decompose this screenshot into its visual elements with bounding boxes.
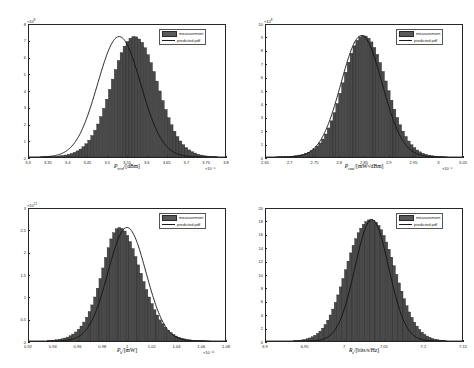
histogram-bar	[153, 310, 156, 341]
histogram-bar	[117, 60, 120, 157]
x-axis-tick-mark	[226, 156, 227, 158]
y-axis-tick-mark	[265, 221, 267, 222]
y-axis-tick-mark	[265, 235, 267, 236]
y-axis-tick-mark	[265, 78, 267, 79]
x-axis-tick-mark	[127, 156, 128, 158]
x-axis-tick-mark	[265, 340, 266, 342]
histogram-bar	[94, 130, 97, 157]
histogram-bar	[152, 72, 155, 157]
y-exponent-label: ×1012	[27, 202, 37, 208]
y-axis-tick-label: 8	[6, 22, 26, 27]
x-exponent-label: ×10⁻⁶	[205, 166, 215, 171]
panel-bottom-left: ×1012 00.511.522.53 0.920.940.960.9811.0…	[0, 184, 237, 368]
histogram-bar	[393, 109, 396, 157]
histogram-bar	[94, 297, 97, 341]
y-exponent-label: ×108	[264, 18, 272, 24]
histogram-bar	[334, 302, 337, 341]
x-axis-tick-mark	[201, 340, 202, 342]
y-axis-tick-label: 2	[243, 326, 263, 331]
histogram-bar	[329, 315, 332, 341]
legend-label-predicted: predicted pdf	[177, 39, 200, 43]
histogram-bars	[47, 227, 210, 341]
x-axis-tick-mark	[463, 156, 464, 158]
x-axis-tick-mark	[384, 340, 385, 342]
measurement-swatch	[399, 31, 414, 37]
legend-row-predicted: predicted pdf	[162, 39, 203, 43]
y-axis-tick-label: 4	[243, 313, 263, 318]
histogram-bar	[123, 46, 126, 157]
x-exponent-label: ×10⁻¹¹	[203, 350, 214, 355]
legend: measurement predicted pdf	[396, 29, 443, 45]
y-axis-tick-mark	[28, 208, 30, 209]
x-axis-label-unit: /[dBm]	[124, 163, 140, 169]
histogram-bar	[148, 297, 151, 341]
x-axis-tick-mark	[339, 156, 340, 158]
histogram-bar	[159, 320, 162, 341]
histogram-bar	[378, 226, 381, 342]
x-axis-tick-mark	[68, 156, 69, 158]
histogram-bar	[121, 228, 124, 341]
histogram-bar	[322, 139, 325, 157]
histogram-bar	[395, 274, 398, 341]
histogram-bar	[370, 220, 373, 341]
histogram-bar	[104, 257, 107, 341]
x-axis-label: Pb/[mW]	[28, 347, 226, 355]
histogram-bar	[137, 265, 140, 341]
histogram-bar	[337, 295, 340, 341]
histogram-bar	[135, 37, 138, 157]
histogram-bar	[349, 253, 352, 341]
y-axis-tick-mark	[28, 125, 30, 126]
histogram-bar	[372, 220, 375, 341]
histogram-bar	[58, 156, 61, 157]
histogram-bar	[164, 109, 167, 157]
y-axis-tick-mark	[28, 230, 30, 231]
histogram-bar	[416, 326, 419, 341]
histogram-bar	[370, 42, 373, 157]
x-axis-label-unit: /[bits/s/Hz]	[354, 347, 379, 353]
legend-row-measurement: measurement	[399, 31, 440, 37]
histogram-bar	[73, 152, 76, 157]
x-axis-tick-mark	[315, 156, 316, 158]
histogram-bar	[132, 249, 135, 341]
y-axis-tick-mark	[28, 24, 30, 25]
y-axis-tick-mark	[28, 141, 30, 142]
histogram-bar	[105, 99, 108, 157]
legend-label-measurement: measurement	[416, 32, 440, 36]
predicted-line-swatch	[162, 224, 175, 225]
histogram-bar	[158, 91, 161, 157]
histogram-bar	[114, 70, 117, 157]
y-axis-tick-label: 7	[6, 38, 26, 43]
x-axis-label-unit: /[mW]	[122, 347, 137, 353]
x-axis-label: Ra/[bits/s/Hz]	[265, 347, 463, 355]
legend: measurement predicted pdf	[396, 213, 443, 229]
predicted-line-swatch	[399, 40, 412, 41]
y-axis-tick-label: 2	[6, 122, 26, 127]
y-axis-tick-label: 6	[243, 75, 263, 80]
x-axis-label: Pcaus/[mWᵃ/dBm]	[265, 163, 463, 171]
histogram-bar	[155, 81, 158, 157]
histogram-bar	[150, 63, 153, 157]
y-axis-tick-mark	[265, 64, 267, 65]
x-axis-tick-mark	[423, 340, 424, 342]
histogram-bar	[88, 140, 91, 157]
x-axis-tick-mark	[186, 156, 187, 158]
y-axis-tick-label: 18	[243, 219, 263, 224]
x-axis-tick-mark	[305, 340, 306, 342]
legend-row-predicted: predicted pdf	[399, 39, 440, 43]
histogram-bar	[396, 117, 399, 157]
y-axis-tick-label: 5	[243, 89, 263, 94]
x-axis-tick-mark	[206, 156, 207, 158]
y-exponent-label: ×108	[27, 18, 35, 24]
x-axis-tick-mark	[344, 340, 345, 342]
histogram-bar	[134, 257, 137, 341]
histogram-bar	[362, 224, 365, 341]
x-axis-label: Prcvd/[dBm]	[28, 163, 226, 171]
histogram-bar	[53, 156, 56, 157]
x-axis-tick-mark	[152, 340, 153, 342]
histogram-bar	[390, 257, 393, 341]
histogram-bars	[41, 37, 217, 157]
histogram-bar	[61, 156, 64, 157]
legend-row-predicted: predicted pdf	[162, 223, 203, 227]
histogram-bar	[170, 125, 173, 157]
measurement-swatch	[399, 215, 414, 221]
